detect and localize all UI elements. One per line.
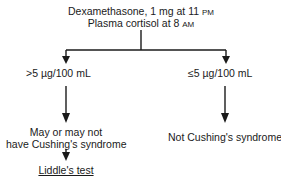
right-condition: ≤5 µg/100 mL xyxy=(188,67,252,79)
left-outcome-line-1: May or may not xyxy=(6,126,126,138)
left-condition: >5 µg/100 mL xyxy=(26,67,91,79)
left-outcome-line-2: have Cushing's syndrome xyxy=(6,138,126,150)
root-line-2: Plasma cortisol at 8 AM xyxy=(40,17,242,31)
right-outcome: Not Cushing's syndrome xyxy=(160,131,281,143)
liddles-test: Liddle's test xyxy=(6,164,126,176)
